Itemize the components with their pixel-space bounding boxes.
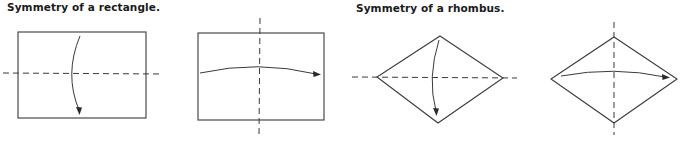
horizontal-symmetry-axis <box>3 73 163 74</box>
fold-arrow <box>561 71 665 77</box>
fold-arrow <box>432 40 439 111</box>
fold-arrow <box>200 67 316 74</box>
arrowhead-icon <box>662 74 670 80</box>
arrowhead-icon <box>76 107 82 115</box>
rhombus-horizontal-axis-panel <box>352 36 517 123</box>
symmetry-diagram <box>0 0 689 144</box>
rectangle-shape <box>198 33 324 120</box>
horizontal-symmetry-axis <box>352 77 517 78</box>
arrowhead-icon <box>313 71 321 77</box>
rhombus-shape <box>551 37 677 123</box>
rhombus-vertical-axis-panel <box>551 22 677 135</box>
rectangle-horizontal-axis-panel <box>3 32 163 118</box>
vertical-symmetry-axis <box>259 18 260 135</box>
arrowhead-icon <box>433 108 439 116</box>
rectangle-shape <box>18 32 146 118</box>
rectangle-vertical-axis-panel <box>198 18 324 135</box>
rhombus-shape <box>377 36 503 123</box>
